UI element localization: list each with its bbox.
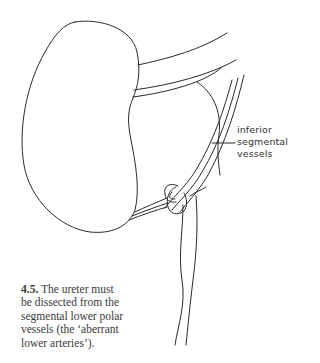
label-line-3: vessels [237,148,288,160]
ureter-bulb [167,187,186,214]
caption-line-5: lower arteries’). [21,337,141,350]
figure-number: 4.5. [21,283,38,295]
label-line-1: inferior [237,124,288,136]
figure-caption: 4.5. The ureter must be dissected from t… [21,283,141,350]
caption-line-3: segmental lower polar [21,310,141,323]
caption-line-2: be dissected from the [21,296,141,309]
inferior-segmental-vessels-label: inferior segmental vessels [237,124,288,160]
ureter-crossing [190,187,206,196]
lower-polar-vessel-3 [129,207,167,220]
upper-renal-vessel [138,33,227,65]
ureter-right-edge [186,196,197,345]
segmental-vessel-2 [172,78,238,210]
caption-line-1: 4.5. The ureter must [21,283,141,296]
label-line-2: segmental [237,136,288,148]
kidney-outline [22,21,139,232]
ureter-left-edge [175,205,183,345]
caption-text-1: The ureter must [41,283,114,295]
caption-line-4: vessels (the ‘aberrant [21,323,141,336]
